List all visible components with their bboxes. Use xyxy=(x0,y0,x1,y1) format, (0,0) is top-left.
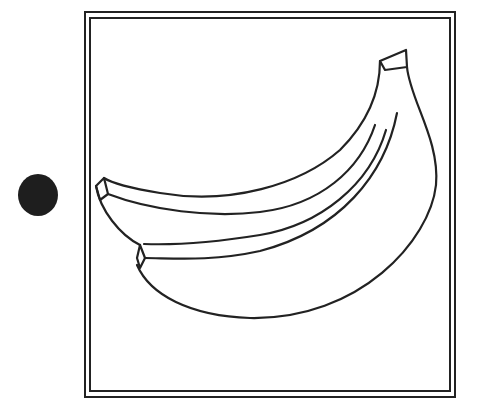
banana-illustration xyxy=(0,0,480,414)
